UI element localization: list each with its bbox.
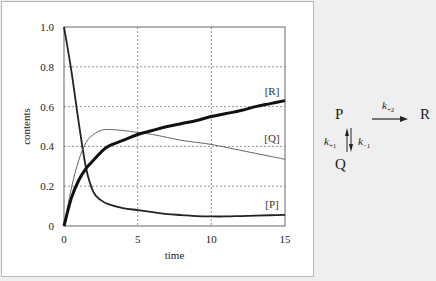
series-line-p — [64, 27, 285, 216]
series-label-q: [Q] — [264, 132, 279, 144]
series-label-r: [R] — [265, 85, 280, 97]
line-chart: 00.20.40.60.81.0051015timecontents[P][Q]… — [0, 0, 315, 281]
x-axis-label: time — [165, 249, 185, 261]
y-tick-label: 0.6 — [40, 101, 54, 113]
x-tick-label: 5 — [135, 233, 141, 245]
series-line-r — [64, 101, 285, 226]
y-tick-label: 0.8 — [40, 61, 54, 73]
series-line-q — [64, 129, 285, 226]
x-tick-label: 10 — [206, 233, 218, 245]
y-tick-label: 1.0 — [40, 21, 54, 33]
y-axis-label: contents — [20, 108, 32, 145]
y-tick-label: 0.2 — [40, 180, 54, 192]
y-tick-label: 0 — [49, 220, 55, 232]
y-tick-label: 0.4 — [40, 140, 54, 152]
x-tick-label: 0 — [61, 233, 67, 245]
series-label-p: [P] — [265, 198, 278, 210]
arrow-up-icon — [345, 128, 349, 136]
arrow-right-icon — [400, 116, 408, 122]
reaction-arrows — [320, 100, 436, 200]
reaction-scheme: P R Q k+2 k+1 k−1 — [320, 100, 436, 200]
arrow-down-icon — [349, 144, 353, 152]
x-tick-label: 15 — [280, 233, 292, 245]
